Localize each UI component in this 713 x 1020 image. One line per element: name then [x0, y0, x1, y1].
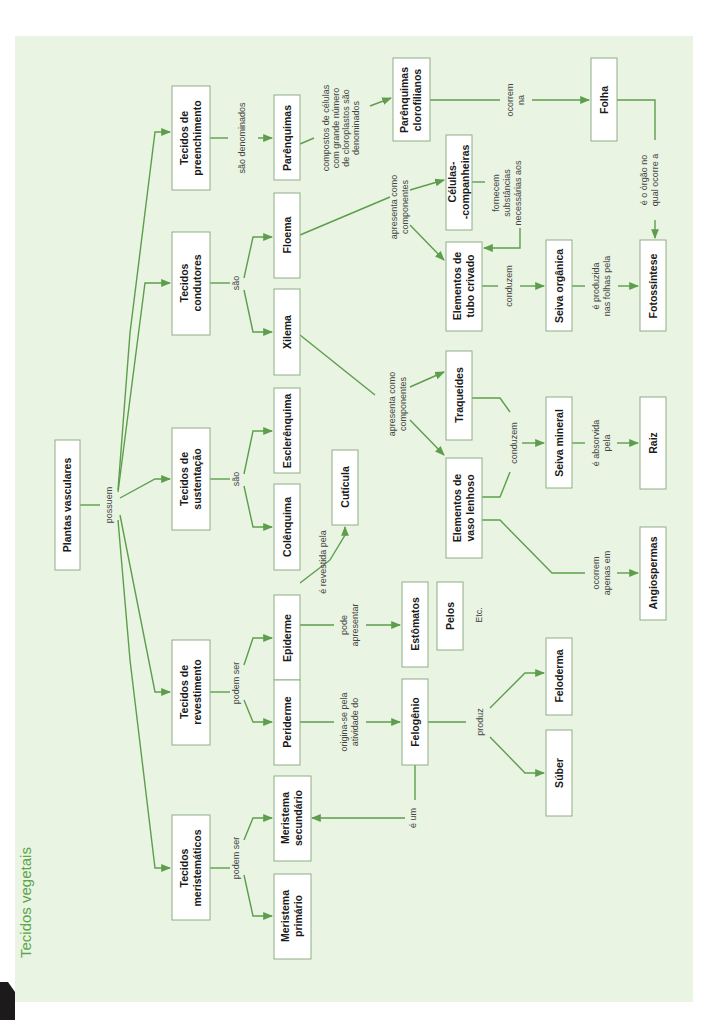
svg-text:apresenta como: apresenta como — [387, 372, 397, 437]
node-estomatos: Estômatos — [402, 582, 428, 667]
svg-text:preenchimento: preenchimento — [191, 100, 203, 175]
svg-text:Células-: Células- — [446, 161, 458, 202]
svg-text:conduzem: conduzem — [504, 265, 514, 307]
label-podem-ser-revestimento: podem ser — [231, 662, 241, 705]
node-floema: Floema — [274, 193, 300, 278]
svg-text:Fotossíntese: Fotossíntese — [647, 253, 659, 318]
svg-text:Elementos de: Elementos de — [451, 252, 463, 320]
svg-text:Tecidos de: Tecidos de — [178, 111, 190, 165]
svg-text:Pelos: Pelos — [444, 602, 456, 630]
svg-text:Cutícula: Cutícula — [339, 466, 351, 508]
label-e-o-orgao: é o órgão no qual ocorre a — [639, 154, 660, 207]
label-produz: produz — [475, 708, 485, 736]
svg-text:pela: pela — [602, 434, 612, 451]
diagram-title: Tecidos vegetais — [17, 847, 34, 958]
svg-text:Tecidos: Tecidos — [178, 848, 190, 887]
svg-text:Etc.: Etc. — [474, 607, 484, 623]
svg-text:Seiva orgânica: Seiva orgânica — [553, 249, 565, 323]
svg-text:origina-se pela: origina-se pela — [339, 692, 349, 751]
node-pelos: Pelos — [437, 582, 463, 650]
svg-text:Raiz: Raiz — [647, 432, 659, 454]
label-origina-se: origina-se pela atividade do — [339, 692, 360, 751]
svg-text:Colênquima: Colênquima — [281, 497, 293, 557]
svg-text:de cloroplastos são: de cloroplastos são — [341, 89, 351, 167]
svg-text:apenas em: apenas em — [602, 551, 612, 596]
svg-text:podem ser: podem ser — [231, 837, 241, 880]
svg-text:podem ser: podem ser — [231, 662, 241, 705]
svg-text:qual ocorre a: qual ocorre a — [650, 154, 660, 207]
svg-text:Tecidos: Tecidos — [178, 263, 190, 302]
svg-text:Folha: Folha — [598, 86, 610, 114]
label-sao-condutores: são — [231, 276, 241, 291]
svg-text:na: na — [516, 95, 526, 105]
label-apresenta-floema: apresenta como componentes — [389, 175, 410, 240]
svg-text:com grande número: com grande número — [331, 88, 341, 169]
svg-text:denominados: denominados — [351, 100, 361, 155]
svg-text:Periderme: Periderme — [281, 696, 293, 748]
svg-text:Tecidos de: Tecidos de — [178, 665, 190, 719]
svg-text:são: são — [231, 276, 241, 291]
svg-text:Parênquimas: Parênquimas — [398, 67, 410, 133]
node-plantas-vasculares: Plantas vasculares — [55, 440, 80, 570]
node-angiospermas: Angiospermas — [640, 527, 666, 620]
svg-text:Esclerênquima: Esclerênquima — [281, 393, 293, 468]
svg-text:possuem: possuem — [104, 487, 114, 524]
svg-text:condutores: condutores — [191, 254, 203, 311]
label-e-revestida: é revestida pela — [318, 530, 328, 594]
label-sao-denominados: são denominados — [237, 102, 247, 174]
node-fotossintese: Fotossíntese — [640, 240, 666, 331]
node-feloderma: Feloderma — [546, 638, 572, 715]
concept-map-tecidos-vegetais: Tecidos vegetais — [0, 0, 713, 1020]
svg-text:Feloderma: Feloderma — [553, 649, 565, 702]
svg-text:apresentar: apresentar — [350, 603, 360, 646]
node-seiva-mineral: Seiva mineral — [546, 397, 572, 488]
node-suber: Súber — [546, 730, 572, 816]
node-xilema: Xilema — [274, 289, 300, 375]
svg-text:componentes: componentes — [398, 376, 408, 431]
node-colenquima: Colênquima — [274, 484, 300, 570]
svg-text:conduzem: conduzem — [509, 422, 519, 464]
svg-text:Xilema: Xilema — [281, 315, 293, 349]
svg-text:componentes: componentes — [400, 179, 410, 234]
svg-text:é produzida: é produzida — [591, 262, 601, 309]
svg-text:é um: é um — [408, 808, 418, 828]
label-podem-ser-meristematicos: podem ser — [231, 837, 241, 880]
svg-text:Traqueídes: Traqueídes — [453, 367, 465, 423]
node-meristema-primario: Meristemaprimário — [274, 874, 311, 959]
svg-text:ocorrem: ocorrem — [505, 83, 515, 116]
node-elementos-tubo-crivado: Elementos detubo crivado — [446, 242, 482, 331]
svg-text:Seiva mineral: Seiva mineral — [553, 409, 565, 477]
label-e-produzida: é produzida nas folhas pela — [591, 256, 612, 317]
node-tecidos-condutores: Tecidoscondutores — [172, 232, 210, 335]
svg-text:Floema: Floema — [281, 216, 293, 253]
svg-text:Angiospermas: Angiospermas — [647, 536, 659, 609]
svg-text:Tecidos de: Tecidos de — [178, 452, 190, 506]
svg-text:vaso lenhoso: vaso lenhoso — [464, 474, 476, 541]
svg-text:meristemáticos: meristemáticos — [191, 829, 203, 906]
svg-text:apresenta como: apresenta como — [389, 175, 399, 240]
node-tecidos-preenchimento: Tecidos depreenchimento — [172, 86, 210, 190]
label-etc: Etc. — [474, 607, 484, 623]
svg-text:nas folhas pela: nas folhas pela — [602, 256, 612, 317]
svg-text:fornecem: fornecem — [491, 174, 501, 212]
svg-text:primário: primário — [292, 895, 304, 937]
node-esclerenquima: Esclerênquima — [274, 388, 300, 473]
node-raiz: Raiz — [640, 397, 666, 489]
svg-text:atividade do: atividade do — [350, 698, 360, 747]
svg-text:clorofilianos: clorofilianos — [411, 69, 423, 132]
node-elementos-vaso-lenhoso: Elementos devaso lenhoso — [446, 458, 482, 558]
node-tecidos-revestimento: Tecidos derevestimento — [172, 640, 210, 745]
label-e-um: é um — [408, 808, 418, 828]
svg-text:tubo crivado: tubo crivado — [464, 254, 476, 317]
svg-text:é revestida pela: é revestida pela — [318, 530, 328, 594]
svg-text:-companheiras: -companheiras — [459, 145, 471, 220]
label-sao-sustentacao: são — [231, 472, 241, 487]
svg-text:Felogênio: Felogênio — [409, 697, 421, 747]
svg-text:Estômatos: Estômatos — [409, 597, 421, 651]
node-folha: Folha — [591, 58, 617, 141]
svg-text:Elementos de: Elementos de — [451, 474, 463, 542]
svg-text:necessárias aos: necessárias aos — [513, 160, 523, 226]
label-conduzem-mineral: conduzem — [509, 422, 519, 464]
svg-text:ocorrem: ocorrem — [591, 556, 601, 589]
label-ocorrem-apenas: ocorrem apenas em — [591, 551, 612, 596]
